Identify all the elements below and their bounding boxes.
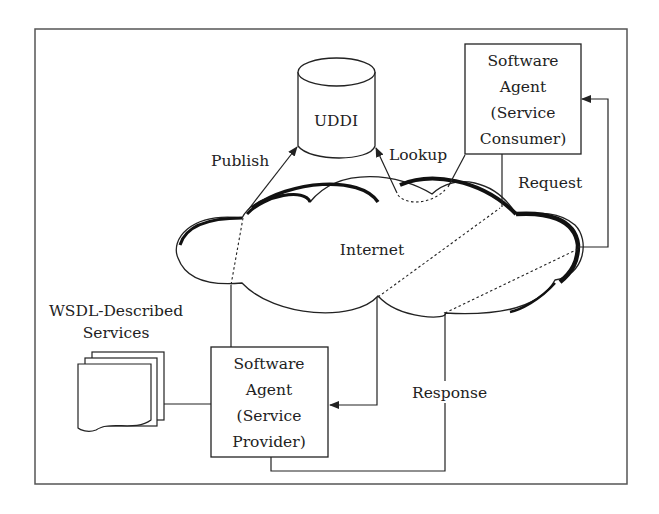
consumer-line-3: (Service (491, 104, 556, 122)
wsdl-documents-icon (78, 352, 164, 431)
consumer-line-1: Software (487, 52, 558, 70)
provider-line-4: Provider) (232, 433, 305, 451)
provider-line-1: Software (233, 355, 304, 373)
consumer-line-2: Agent (499, 78, 547, 96)
response-label: Response (412, 384, 487, 402)
service-provider-agent: Software Agent (Service Provider) (211, 347, 328, 457)
request-label: Request (518, 174, 583, 192)
wsdl-label-line-2: Services (83, 324, 150, 342)
web-services-diagram: UDDI Publish Lookup Software Agent (Serv… (0, 0, 659, 514)
service-consumer-agent: Software Agent (Service Consumer) (465, 44, 581, 154)
cloud-to-provider-arrow (330, 297, 377, 405)
provider-line-2: Agent (245, 381, 293, 399)
wsdl-label-line-1: WSDL-Described (49, 302, 183, 320)
uddi-database: UDDI (298, 58, 375, 158)
provider-line-3: (Service (237, 407, 302, 425)
internet-label: Internet (340, 241, 405, 259)
request-arrow (578, 99, 608, 247)
lookup-label: Lookup (389, 146, 447, 164)
publish-label: Publish (211, 152, 269, 170)
consumer-line-4: Consumer) (480, 130, 566, 148)
uddi-label: UDDI (314, 112, 358, 130)
